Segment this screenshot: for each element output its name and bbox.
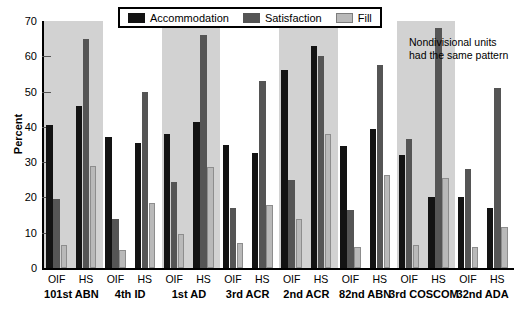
x-subgroup-label: OIF	[283, 273, 301, 285]
bar-accommodation	[223, 145, 229, 269]
x-subgroup-label: OIF	[48, 273, 66, 285]
legend-swatch-icon	[128, 13, 145, 23]
bar-satisfaction	[435, 28, 441, 268]
x-subgroup-label: HS	[79, 273, 94, 285]
y-axis-tick	[42, 92, 51, 93]
bar-satisfaction	[406, 139, 412, 268]
x-subgroup-label: OIF	[165, 273, 183, 285]
bar-satisfaction	[83, 39, 89, 268]
bar-satisfaction	[347, 210, 353, 268]
bar-accommodation	[135, 143, 141, 268]
x-group-label: 82nd ABN	[339, 288, 391, 300]
bar-satisfaction	[230, 208, 236, 268]
bar-accommodation	[164, 134, 170, 268]
bar-accommodation	[370, 129, 376, 268]
bar-fill	[472, 247, 478, 268]
bar-fill	[119, 250, 125, 268]
legend-label: Fill	[358, 12, 372, 24]
legend-label: Accommodation	[150, 12, 229, 24]
bar-fill	[207, 167, 213, 268]
bar-accommodation	[105, 137, 111, 268]
bar-satisfaction	[377, 65, 383, 268]
x-group-label: 101st ABN	[44, 288, 99, 300]
bar-fill	[325, 134, 331, 268]
legend-swatch-icon	[243, 13, 260, 23]
bar-satisfaction	[53, 199, 59, 268]
bar-accommodation	[311, 46, 317, 268]
legend-swatch-icon	[336, 13, 353, 23]
bar-accommodation	[46, 125, 52, 268]
legend-item: Fill	[336, 12, 372, 24]
bar-accommodation	[252, 153, 258, 268]
legend-label: Satisfaction	[265, 12, 322, 24]
bar-satisfaction	[494, 88, 500, 268]
x-group-label: 3rd COSCOM	[389, 288, 459, 300]
x-subgroup-label: OIF	[224, 273, 242, 285]
y-tick-label: 0	[3, 262, 37, 274]
x-subgroup-label: OIF	[342, 273, 360, 285]
y-tick-label: 20	[3, 191, 37, 203]
y-tick-label: 40	[3, 121, 37, 133]
bar-satisfaction	[112, 219, 118, 268]
bar-fill	[442, 178, 448, 268]
bar-fill	[237, 243, 243, 268]
x-subgroup-label: OIF	[459, 273, 477, 285]
bar-fill	[61, 245, 67, 268]
x-subgroup-label: HS	[314, 273, 329, 285]
y-tick-label: 30	[3, 156, 37, 168]
chart-annotation: Nondivisional units had the same pattern	[409, 36, 509, 62]
x-subgroup-label: HS	[373, 273, 388, 285]
bar-satisfaction	[318, 56, 324, 268]
bar-accommodation	[428, 197, 434, 268]
bar-fill	[296, 219, 302, 268]
x-subgroup-label: HS	[490, 273, 505, 285]
bar-accommodation	[281, 70, 287, 268]
x-group-label: 2nd ACR	[283, 288, 329, 300]
bar-satisfaction	[259, 81, 265, 268]
bar-satisfaction	[288, 180, 294, 268]
y-axis-tick	[42, 56, 51, 57]
legend-item: Satisfaction	[243, 12, 322, 24]
legend-item: Accommodation	[128, 12, 229, 24]
bar-fill	[90, 166, 96, 268]
x-group-label: 32nd ADA	[457, 288, 509, 300]
bar-satisfaction	[465, 169, 471, 268]
bar-fill	[413, 245, 419, 268]
x-group-label: 1st AD	[172, 288, 206, 300]
bar-fill	[501, 227, 507, 268]
bar-satisfaction	[142, 92, 148, 268]
x-subgroup-label: HS	[431, 273, 446, 285]
bar-satisfaction	[171, 182, 177, 268]
bar-accommodation	[193, 122, 199, 268]
bar-fill	[149, 203, 155, 268]
bar-accommodation	[487, 208, 493, 268]
bar-accommodation	[458, 197, 464, 268]
bar-fill	[384, 175, 390, 269]
bar-satisfaction	[200, 35, 206, 268]
bar-fill	[266, 205, 272, 269]
bar-fill	[354, 247, 360, 268]
bar-accommodation	[76, 106, 82, 268]
x-subgroup-label: HS	[196, 273, 211, 285]
bar-accommodation	[340, 146, 346, 268]
x-subgroup-label: OIF	[400, 273, 418, 285]
x-group-label: 3rd ACR	[226, 288, 270, 300]
y-tick-label: 50	[3, 86, 37, 98]
bar-chart: Percent 010203040506070 OIFHS101st ABNOI…	[0, 0, 519, 313]
x-subgroup-label: HS	[255, 273, 270, 285]
chart-legend: AccommodationSatisfactionFill	[118, 7, 382, 28]
bar-accommodation	[399, 155, 405, 268]
x-subgroup-label: OIF	[107, 273, 125, 285]
bar-fill	[178, 234, 184, 268]
y-tick-label: 60	[3, 50, 37, 62]
x-group-label: 4th ID	[115, 288, 146, 300]
y-tick-label: 70	[3, 15, 37, 27]
y-tick-label: 10	[3, 227, 37, 239]
x-subgroup-label: HS	[138, 273, 153, 285]
